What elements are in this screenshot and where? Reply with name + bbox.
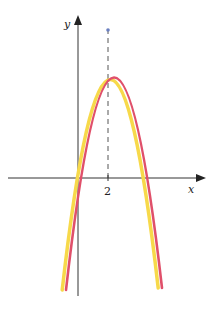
x-axis-label: x — [188, 183, 195, 196]
x-axis-arrow-icon — [196, 174, 206, 182]
parabola-curve — [66, 77, 162, 290]
x-tick-label-2: 2 — [104, 185, 111, 198]
chart: y 2 x — [0, 0, 215, 310]
y-axis-arrow-icon — [74, 15, 82, 25]
vertex-dot — [106, 28, 110, 32]
y-axis-label: y — [63, 18, 71, 31]
